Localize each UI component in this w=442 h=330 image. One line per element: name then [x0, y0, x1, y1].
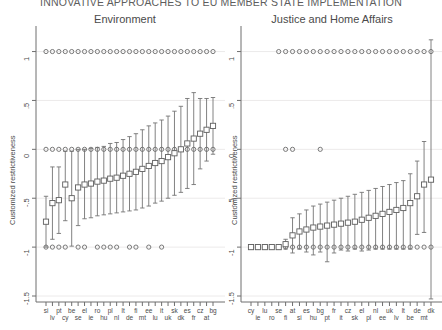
- y-tick-label: 1: [227, 56, 236, 60]
- data-point-square: [345, 220, 350, 225]
- data-point-square: [185, 141, 190, 146]
- data-point-square: [50, 201, 55, 206]
- data-point-square: [255, 245, 260, 250]
- chart-canvas: [0, 0, 442, 330]
- data-point-square: [325, 223, 330, 228]
- y-tick-label: .5: [22, 103, 31, 109]
- data-point-square: [428, 177, 433, 182]
- data-point-square: [82, 182, 87, 187]
- data-point-square: [204, 127, 209, 132]
- x-tick-label: bg: [204, 307, 222, 314]
- data-point-square: [269, 245, 274, 250]
- data-point-square: [338, 221, 343, 226]
- y-tick-label: 1: [22, 56, 31, 60]
- x-tick-label: at: [198, 314, 216, 321]
- data-point-square: [415, 194, 420, 199]
- data-point-square: [120, 173, 125, 178]
- data-point-square: [318, 224, 323, 229]
- data-point-square: [140, 166, 145, 171]
- data-point-square: [88, 181, 93, 186]
- data-point-square: [95, 179, 100, 184]
- y-tick-label: -.5: [227, 198, 236, 207]
- data-point-square: [421, 182, 426, 187]
- data-point-square: [146, 163, 151, 168]
- data-point-square: [198, 131, 203, 136]
- data-point-square: [311, 225, 316, 230]
- x-tick-label: dk: [422, 307, 440, 314]
- y-tick-label: -1: [22, 249, 31, 256]
- data-point-square: [373, 213, 378, 218]
- data-point-square: [290, 233, 295, 238]
- data-point-square: [101, 178, 106, 183]
- data-point-square: [43, 219, 48, 224]
- y-tick-label: -1: [227, 249, 236, 256]
- data-point-square: [380, 211, 385, 216]
- y-tick-label: 0: [22, 154, 31, 158]
- data-point-square: [408, 201, 413, 206]
- data-point-square: [56, 198, 61, 203]
- data-point-square: [69, 196, 74, 201]
- data-point-square: [394, 207, 399, 212]
- data-point-square: [401, 205, 406, 210]
- data-point-square: [366, 215, 371, 220]
- data-point-square: [153, 160, 158, 165]
- y-tick-label: -.5: [22, 198, 31, 207]
- data-point-square: [63, 182, 68, 187]
- y-tick-label: -1.5: [22, 292, 31, 305]
- y-tick-label: 0: [227, 154, 236, 158]
- data-point-square: [108, 176, 113, 181]
- data-point-square: [159, 158, 164, 163]
- data-point-square: [331, 222, 336, 227]
- data-point-square: [76, 185, 81, 190]
- data-point-square: [283, 242, 288, 247]
- y-tick-label: .5: [227, 103, 236, 109]
- data-point-square: [352, 219, 357, 224]
- data-point-square: [387, 209, 392, 214]
- y-tick-label: -1.5: [227, 292, 236, 305]
- data-point-square: [304, 227, 309, 232]
- data-point-square: [248, 245, 253, 250]
- data-point-square: [276, 245, 281, 250]
- data-point-square: [165, 155, 170, 160]
- data-point-square: [262, 245, 267, 250]
- data-point-square: [178, 147, 183, 152]
- data-point-square: [172, 151, 177, 156]
- data-point-square: [127, 171, 132, 176]
- data-point-square: [297, 229, 302, 234]
- x-tick-label: mt: [415, 314, 433, 321]
- data-point-square: [191, 136, 196, 141]
- data-point-square: [359, 217, 364, 222]
- data-point-square: [133, 169, 138, 174]
- data-point-square: [114, 175, 119, 180]
- data-point-square: [210, 123, 215, 128]
